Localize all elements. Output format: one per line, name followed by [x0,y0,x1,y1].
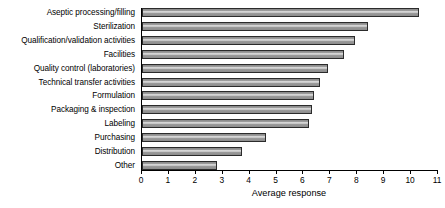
bar-row [142,64,437,73]
category-label: Other [0,161,138,170]
x-tick [329,170,330,174]
bar-row [142,22,437,31]
bar [142,119,309,128]
bar-row [142,91,437,100]
bar [142,105,312,114]
bar-row [142,133,437,142]
category-axis: Aseptic processing/fillingSterilizationQ… [0,8,138,170]
category-label: Purchasing [0,133,138,142]
bar [142,161,217,170]
x-tick-label: 7 [327,175,332,185]
x-tick-label: 3 [219,175,224,185]
x-axis-tick-labels: 01234567891011 [141,175,437,186]
category-label: Sterilization [0,22,138,31]
bar-chart-figure: Aseptic processing/fillingSterilizationQ… [0,0,445,208]
bar-row [142,36,437,45]
bar-row [142,161,437,170]
x-tick [383,170,384,174]
bar-row [142,147,437,156]
category-label: Quality control (laboratories) [0,64,138,73]
x-tick-label: 9 [381,175,386,185]
category-label: Labeling [0,119,138,128]
x-tick-label: 6 [300,175,305,185]
x-axis-title: Average response [141,188,437,198]
x-tick [276,170,277,174]
bar [142,64,328,73]
category-label: Facilities [0,50,138,59]
x-tick [141,170,142,174]
x-tick [222,170,223,174]
x-tick-label: 5 [273,175,278,185]
bar-row [142,119,437,128]
x-tick [437,170,438,174]
bar [142,147,242,156]
x-tick [168,170,169,174]
category-label: Aseptic processing/filling [0,8,138,17]
bar [142,50,344,59]
x-tick-label: 11 [433,175,442,185]
x-tick-label: 8 [354,175,359,185]
x-tick-label: 2 [192,175,197,185]
bar [142,133,266,142]
x-tick [302,170,303,174]
plot-area [141,8,437,170]
category-label: Packaging & inspection [0,105,138,114]
bar-row [142,105,437,114]
x-tick [195,170,196,174]
bar-row [142,50,437,59]
bar [142,8,419,17]
category-label: Technical transfer activities [0,78,138,87]
x-tick [356,170,357,174]
bar [142,36,355,45]
x-tick-label: 0 [139,175,144,185]
bars-group [142,8,437,170]
x-tick-label: 10 [405,175,414,185]
x-tick-label: 1 [166,175,171,185]
bar-row [142,78,437,87]
bar [142,22,368,31]
x-tick [410,170,411,174]
x-tick [249,170,250,174]
x-tick-label: 4 [246,175,251,185]
bar [142,78,320,87]
category-label: Distribution [0,147,138,156]
bar-row [142,8,437,17]
category-label: Qualification/validation activities [0,36,138,45]
bar [142,91,314,100]
category-label: Formulation [0,91,138,100]
